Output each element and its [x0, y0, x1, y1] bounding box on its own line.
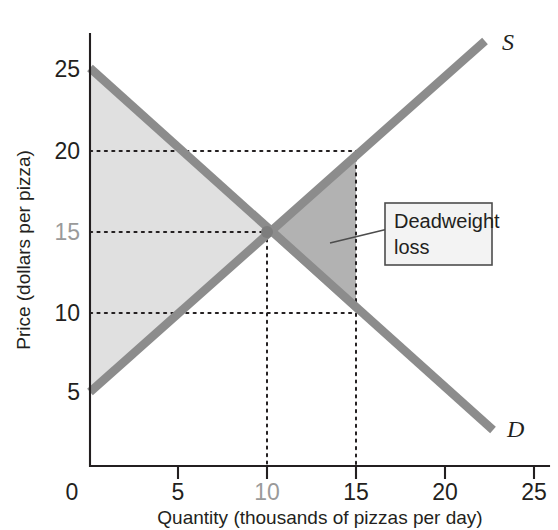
x-tick-label-20: 20 [432, 479, 458, 505]
y-axis-title: Price (dollars per pizza) [13, 150, 34, 350]
demand-curve-label: D [506, 416, 524, 442]
y-axis-tick-labels: 5 10 15 20 25 [54, 56, 80, 405]
supply-demand-chart: S D 0 5 10 15 20 25 5 1 [0, 0, 558, 530]
x-tick-label-25: 25 [521, 479, 547, 505]
callout-line-2: loss [394, 236, 430, 258]
x-tick-label-5: 5 [172, 479, 185, 505]
x-tick-label-10: 10 [254, 479, 280, 505]
callout-line-1: Deadweight [394, 210, 500, 232]
x-axis-tick-labels: 0 5 10 15 20 25 [66, 479, 547, 505]
y-tick-label-15: 15 [54, 219, 80, 245]
equilibrium-point [261, 226, 273, 238]
y-tick-label-10: 10 [54, 300, 80, 326]
y-tick-label-25: 25 [54, 56, 80, 82]
y-tick-label-5: 5 [67, 379, 80, 405]
x-axis-ticks [178, 466, 534, 479]
y-tick-label-20: 20 [54, 138, 80, 164]
deadweight-loss-region [267, 151, 356, 313]
x-tick-label-0: 0 [66, 479, 79, 505]
x-tick-label-15: 15 [343, 479, 369, 505]
shaded-regions [90, 68, 356, 392]
supply-curve-label: S [502, 29, 514, 55]
x-axis-title: Quantity (thousands of pizzas per day) [157, 507, 482, 528]
